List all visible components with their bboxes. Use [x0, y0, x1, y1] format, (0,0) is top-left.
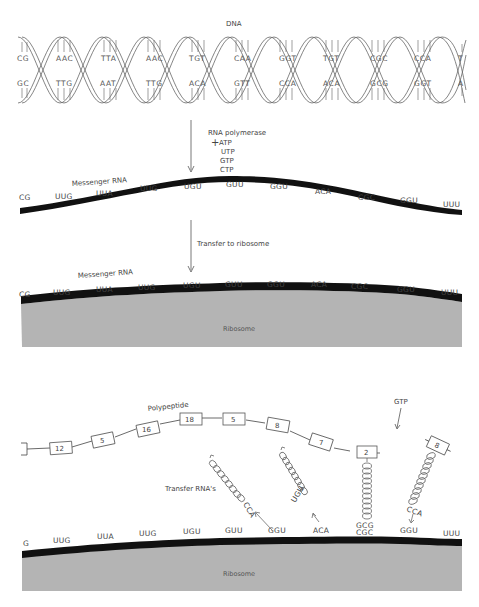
svg-text:GGT: GGT [279, 54, 297, 63]
nucleotide-atp: ATP [219, 139, 232, 147]
svg-text:CAA: CAA [234, 54, 252, 63]
svg-text:CGC: CGC [356, 528, 373, 537]
svg-text:CG: CG [19, 290, 31, 299]
incoming-amino-acid-8: 8 [423, 434, 453, 457]
svg-text:TTG: TTG [55, 79, 73, 88]
svg-text:ACA: ACA [189, 79, 206, 88]
svg-text:G: G [23, 539, 29, 548]
rna-polymerase-label: RNA polymerase [208, 129, 266, 137]
svg-text:UUG: UUG [138, 283, 156, 292]
amino-acid-5b: 5 [223, 413, 245, 425]
svg-text:GTT: GTT [234, 79, 250, 88]
mrna-label: Messenger RNA [78, 268, 134, 280]
svg-text:2: 2 [364, 449, 368, 457]
svg-text:CGC: CGC [358, 193, 375, 202]
svg-text:GUU: GUU [226, 180, 244, 189]
chain-end-bracket [21, 443, 27, 455]
dna-helix: DNA [17, 20, 466, 103]
svg-text:A: A [458, 79, 464, 88]
svg-text:AAT: AAT [100, 79, 116, 88]
gtp-arrow-icon [397, 408, 401, 428]
svg-text:GGU: GGU [268, 526, 286, 535]
amino-acid-18: 18 [180, 413, 202, 425]
svg-text:AAC: AAC [56, 54, 73, 63]
svg-text:UUG: UUG [55, 192, 73, 201]
ribosome-label: Ribosome [223, 325, 255, 333]
svg-text:UUG: UUG [53, 288, 71, 297]
svg-text:T: T [457, 54, 463, 63]
svg-text:UUU: UUU [441, 288, 458, 297]
svg-text:TTA: TTA [100, 54, 117, 63]
svg-text:CGC: CGC [351, 282, 368, 291]
svg-text:GUU: GUU [225, 526, 243, 535]
svg-text:5: 5 [231, 416, 235, 424]
svg-text:UUG: UUG [140, 184, 158, 193]
transfer-step: Transfer to ribosome [188, 220, 269, 272]
svg-text:CG: CG [17, 54, 29, 63]
svg-text:UUA: UUA [96, 189, 114, 198]
trna-1-anticodon: CCA [241, 501, 257, 520]
trna-4-anticodon: CCA [405, 504, 424, 518]
svg-text:GGU: GGU [270, 182, 288, 191]
polypeptide-label: Polypeptide [147, 401, 189, 413]
release-arrow-icon [313, 514, 319, 522]
amino-acid-8: 8 [266, 417, 290, 433]
svg-text:CCA: CCA [279, 79, 297, 88]
svg-text:GCG: GCG [370, 79, 389, 88]
mrna-ribosome-2: Messenger RNA Ribosome CG UUG UUA UUG UG… [19, 268, 462, 347]
svg-text:UUA: UUA [96, 285, 114, 294]
svg-text:UUA: UUA [97, 532, 115, 541]
trna-4-coil [408, 452, 437, 506]
svg-text:ACA: ACA [313, 526, 330, 535]
svg-text:GGU: GGU [267, 280, 285, 289]
svg-text:TTG: TTG [145, 79, 163, 88]
svg-text:GC: GC [17, 79, 29, 88]
amino-acid-5: 5 [91, 432, 115, 448]
svg-text:GGT: GGT [414, 79, 432, 88]
svg-text:GGU: GGU [400, 526, 418, 535]
trna-3-coil [363, 458, 372, 519]
svg-text:8: 8 [275, 422, 279, 430]
dna-bottom-strand: GC TTG AAT TTG ACA GTT CCA ACA GCG GGT A [17, 79, 464, 88]
svg-text:TGT: TGT [322, 54, 340, 63]
svg-text:CCA: CCA [414, 54, 432, 63]
transcription-step: RNA polymerase + ATP UTP GTP CTP [188, 120, 266, 174]
mrna-label: Messenger RNA [72, 176, 128, 188]
svg-text:UUG: UUG [139, 529, 157, 538]
svg-text:18: 18 [185, 416, 194, 424]
svg-text:7: 7 [319, 439, 323, 447]
svg-text:TGT: TGT [188, 54, 206, 63]
protein-synthesis-diagram: DNA [0, 0, 479, 607]
nucleotide-utp: UTP [221, 148, 235, 156]
amino-acid-2: 2 [357, 446, 377, 458]
svg-text:12: 12 [55, 445, 64, 453]
amino-acid-7: 7 [309, 433, 334, 451]
nucleotide-gtp: GTP [220, 157, 234, 165]
svg-text:UGU: UGU [184, 182, 202, 191]
svg-text:ACA: ACA [311, 280, 328, 289]
svg-text:5: 5 [100, 437, 104, 445]
svg-text:GUU: GUU [225, 280, 243, 289]
ribosome-label: Ribosome [223, 570, 255, 578]
dna-title: DNA [226, 20, 242, 28]
gtp-label: GTP [394, 398, 408, 406]
svg-text:GGU: GGU [400, 196, 418, 205]
svg-text:UGU: UGU [183, 281, 201, 290]
svg-text:AAC: AAC [146, 54, 163, 63]
svg-text:UUU: UUU [443, 529, 460, 538]
translation-step: Polypeptide 12 5 16 18 5 8 7 2 8 GTP Tra… [21, 398, 462, 591]
svg-text:UUU: UUU [443, 200, 460, 209]
mrna-strand-1: Messenger RNA CG UUG UUA UUG UGU GUU GGU… [19, 176, 462, 215]
svg-text:ACA: ACA [315, 187, 332, 196]
nucleotide-ctp: CTP [220, 166, 233, 174]
trna-1-coil [208, 455, 246, 503]
transfer-label: Transfer to ribosome [196, 240, 269, 248]
amino-acid-16: 16 [136, 421, 160, 437]
ribosome-body [21, 290, 462, 347]
svg-text:GGU: GGU [397, 285, 415, 294]
svg-text:UUG: UUG [53, 536, 71, 545]
svg-text:ACA: ACA [323, 79, 340, 88]
trna-label: Transfer RNA's [164, 485, 216, 493]
svg-text:CGC: CGC [370, 54, 388, 63]
svg-text:CG: CG [19, 193, 31, 202]
